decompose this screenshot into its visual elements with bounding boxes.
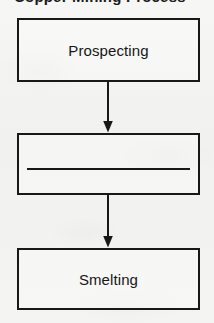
node-label-prospecting: Prospecting [68,43,148,58]
flowchart-canvas: Copper Mining Process Prospecting Smelti… [0,0,214,323]
flowchart-node-redacted[interactable] [17,133,200,195]
diagram-title-text: Copper Mining Process [14,0,186,5]
redaction-rule-icon [27,168,190,170]
flowchart-node-prospecting[interactable]: Prospecting [17,18,200,82]
diagram-title-cropped: Copper Mining Process [0,0,214,6]
flowchart-node-smelting[interactable]: Smelting [17,248,200,310]
node-label-smelting: Smelting [79,272,138,287]
connector-arrow-prospecting-to-redacted [102,82,114,133]
connector-arrow-redacted-to-smelting [102,195,114,248]
